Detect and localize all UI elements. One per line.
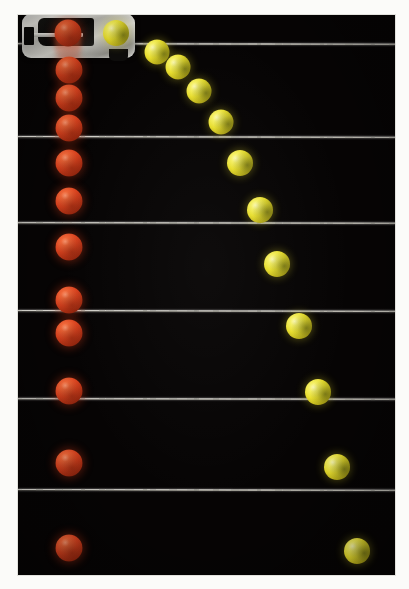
- wire-speck: [327, 136, 333, 138]
- wire-speck: [194, 310, 198, 312]
- wire-speck: [150, 398, 156, 400]
- wire-speck: [99, 489, 105, 491]
- wire-speck: [99, 136, 105, 138]
- wire-speck: [81, 310, 85, 312]
- red-ball-9: [56, 320, 83, 347]
- wire-speck: [371, 398, 375, 400]
- wire-speck: [320, 489, 324, 491]
- wire-speck: [213, 398, 219, 400]
- wire-speck: [320, 310, 324, 312]
- yellow-ball-9: [286, 313, 312, 339]
- wire-speck: [239, 398, 249, 400]
- yellow-ball-3: [166, 55, 191, 80]
- wire-speck: [275, 489, 281, 491]
- yellow-ball-4: [187, 79, 212, 104]
- red-ball-3: [56, 85, 83, 112]
- wire-speck: [143, 310, 147, 312]
- red-ball-4: [56, 115, 83, 142]
- wire-speck: [169, 489, 177, 491]
- wire-speck: [125, 310, 135, 312]
- wire-speck: [257, 489, 261, 491]
- wire-speck: [389, 222, 395, 224]
- wire-speck: [36, 136, 42, 138]
- wire-speck: [150, 489, 156, 491]
- red-ball-12: [56, 535, 83, 562]
- wire-speck: [143, 136, 147, 138]
- wire-speck: [213, 310, 219, 312]
- screenshot-root: Multiflash strobe photograph: a red ball…: [0, 0, 409, 589]
- wire-speck: [18, 310, 22, 312]
- wire-speck: [99, 310, 105, 312]
- wire-speck: [106, 222, 114, 224]
- wire-speck: [194, 398, 198, 400]
- wire-speck: [345, 222, 353, 224]
- wire-speck: [327, 310, 333, 312]
- wire-speck: [194, 489, 198, 491]
- wire-speck: [169, 136, 177, 138]
- wire-speck: [301, 489, 311, 491]
- wire-speck: [275, 310, 281, 312]
- wire-speck: [169, 222, 177, 224]
- wire-speck: [257, 43, 261, 45]
- wire-6: [18, 489, 395, 492]
- wire-speck: [81, 398, 85, 400]
- yellow-ball-10: [305, 379, 331, 405]
- red-ball-7: [56, 234, 83, 261]
- wire-speck: [345, 43, 353, 45]
- wire-speck: [239, 222, 249, 224]
- wire-speck: [275, 398, 281, 400]
- wire-speck: [239, 136, 249, 138]
- wire-speck: [327, 489, 333, 491]
- apparatus-mount-tab: [24, 27, 34, 45]
- wire-speck: [239, 43, 249, 45]
- wire-speck: [283, 398, 291, 400]
- wire-speck: [150, 136, 156, 138]
- wire-speck: [213, 489, 219, 491]
- wire-speck: [106, 136, 114, 138]
- wire-speck: [389, 136, 395, 138]
- wire-speck: [345, 489, 353, 491]
- wire-speck: [99, 398, 105, 400]
- red-ball-1: [55, 20, 82, 47]
- wire-speck: [150, 310, 156, 312]
- wire-speck: [327, 43, 333, 45]
- wire-speck: [275, 43, 281, 45]
- wire-speck: [320, 136, 324, 138]
- wire-speck: [169, 43, 177, 45]
- wire-speck: [62, 489, 72, 491]
- yellow-ball-6: [227, 150, 253, 176]
- wire-speck: [213, 136, 219, 138]
- wire-speck: [320, 43, 324, 45]
- wire-speck: [150, 222, 156, 224]
- wire-speck: [283, 310, 291, 312]
- red-ball-8: [56, 287, 83, 314]
- wire-speck: [125, 222, 135, 224]
- wire-speck: [169, 398, 177, 400]
- wire-speck: [18, 398, 22, 400]
- wire-speck: [275, 136, 281, 138]
- wire-speck: [106, 489, 114, 491]
- wire-speck: [371, 489, 375, 491]
- yellow-ball-1: [103, 20, 129, 46]
- red-ball-11: [56, 450, 83, 477]
- wire-speck: [389, 310, 395, 312]
- wire-speck: [301, 222, 311, 224]
- wire-speck: [194, 222, 198, 224]
- wire-speck: [327, 222, 333, 224]
- wire-speck: [239, 310, 249, 312]
- wire-speck: [389, 398, 395, 400]
- wire-speck: [345, 310, 353, 312]
- wire-speck: [143, 489, 147, 491]
- figure-description: Multiflash strobe photograph: a red ball…: [0, 0, 1, 1]
- wire-speck: [81, 136, 85, 138]
- wire-speck: [345, 136, 353, 138]
- yellow-ball-5: [209, 110, 234, 135]
- wire-speck: [213, 43, 219, 45]
- red-ball-2: [56, 57, 83, 84]
- apparatus-lower-notch: [109, 49, 128, 60]
- wire-speck: [125, 489, 135, 491]
- wire-speck: [36, 398, 42, 400]
- wire-speck: [36, 489, 42, 491]
- wire-speck: [371, 222, 375, 224]
- wire-speck: [194, 43, 198, 45]
